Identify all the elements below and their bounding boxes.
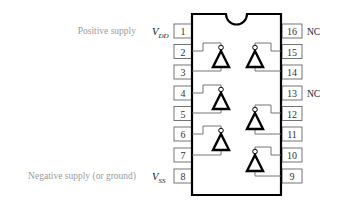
pin-8: 8: [174, 169, 192, 183]
vdd-symbol: VDD: [152, 26, 169, 40]
pin-7: 7: [174, 148, 192, 162]
svg-text:7: 7: [181, 150, 186, 161]
svg-text:4: 4: [181, 88, 186, 99]
vss-symbol: VSS: [152, 171, 166, 185]
pin-15: 15: [282, 45, 302, 59]
svg-text:2: 2: [181, 47, 186, 58]
svg-text:8: 8: [181, 171, 186, 182]
inverter-bubble-icon: [219, 87, 224, 92]
pin-14: 14: [282, 65, 302, 79]
svg-text:6: 6: [181, 129, 186, 140]
svg-text:15: 15: [287, 47, 297, 58]
pin-16: 16: [282, 24, 302, 38]
svg-text:13: 13: [287, 88, 297, 99]
svg-text:14: 14: [287, 67, 297, 78]
left-pins: 1 2 3 4 5 6 7 8: [174, 24, 192, 183]
pin-3: 3: [174, 65, 192, 79]
pin-11: 11: [282, 127, 302, 141]
positive-supply-label: Positive supply: [78, 26, 137, 36]
nc-label-pin13: NC: [307, 89, 320, 99]
svg-text:1: 1: [181, 26, 186, 37]
pin-2: 2: [174, 45, 192, 59]
svg-text:12: 12: [287, 109, 297, 120]
pin-6: 6: [174, 127, 192, 141]
chip-body: [192, 14, 281, 195]
svg-text:11: 11: [287, 129, 297, 140]
svg-text:16: 16: [287, 26, 297, 37]
negative-supply-label: Negative supply (or ground): [28, 171, 136, 182]
pin-13: 13: [282, 86, 302, 100]
inverter-bubble-icon: [219, 128, 224, 133]
pin-12: 12: [282, 107, 302, 121]
inverter-bubble-icon: [219, 45, 224, 50]
svg-text:9: 9: [290, 171, 295, 182]
inverter-bubble-icon: [253, 45, 258, 50]
inverter-bubble-icon: [253, 107, 258, 112]
ic-pinout-diagram: Positive supply Negative supply (or grou…: [0, 0, 337, 210]
pin-10: 10: [282, 148, 302, 162]
svg-text:10: 10: [287, 150, 297, 161]
right-pins: 16 15 14 13 12 11 10 9: [282, 24, 302, 183]
pin-1: 1: [174, 24, 192, 38]
vss-subscript: SS: [158, 177, 166, 185]
pin-5: 5: [174, 107, 192, 121]
svg-text:5: 5: [181, 109, 186, 120]
pin-4: 4: [174, 86, 192, 100]
inverter-bubble-icon: [253, 149, 258, 154]
pin-9: 9: [282, 169, 302, 183]
vdd-subscript: DD: [157, 32, 168, 40]
nc-label-pin16: NC: [307, 27, 320, 37]
svg-text:3: 3: [181, 67, 186, 78]
